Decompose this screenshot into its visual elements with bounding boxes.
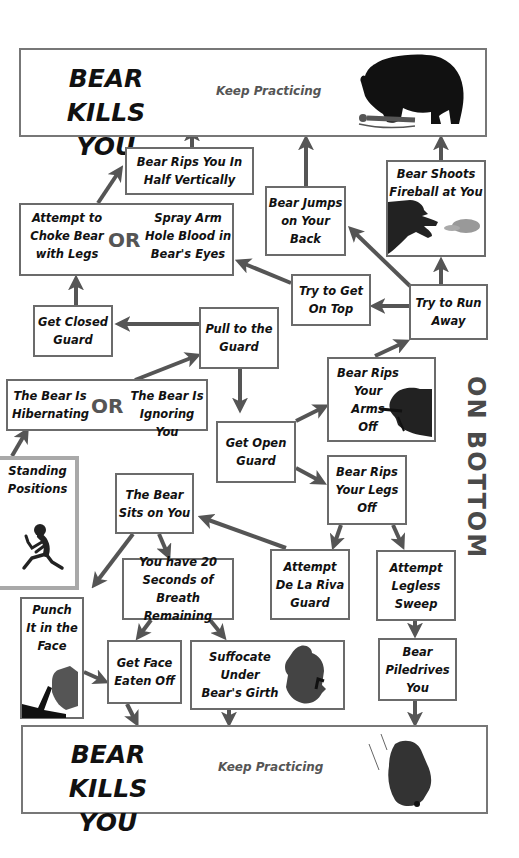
node-choke-legs: Attempt to Choke Bear with Legs <box>26 209 108 263</box>
punching-bear-icon <box>22 662 82 718</box>
arrow-standing-to-hib <box>12 432 26 456</box>
arrow-open-to-legs <box>296 468 322 482</box>
sitting-bear-icon <box>282 645 330 707</box>
node-pull-guard: Pull to the Guard <box>199 307 279 369</box>
node-jumps-back: Bear Jumps on Your Back <box>265 186 346 256</box>
node-open-guard: Get Open Guard <box>216 421 296 483</box>
side-label-on-bottom: ON BOTTOM <box>462 376 490 559</box>
or-label-1: OR <box>108 228 140 252</box>
node-run-away: Try to Run Away <box>409 284 488 340</box>
arrow-legs-to-legless <box>393 525 402 545</box>
arrow-choke-to-rips-half <box>98 170 120 203</box>
arrow-punch-to-face <box>84 672 104 681</box>
arrow-open-to-arms <box>296 407 324 421</box>
node-ignoring: The Bear Is Ignoring You <box>127 387 207 441</box>
top-outcome-subtitle: Keep Practicing <box>216 84 321 98</box>
node-de-la-riva: Attempt De La Riva Guard <box>270 549 350 620</box>
or-label-2: OR <box>91 394 123 418</box>
arrow-dlr-to-sits <box>203 518 286 548</box>
node-spray-blood: Spray Arm Hole Blood in Bear's Eyes <box>143 209 233 263</box>
node-face-eaten: Get Face Eaten Off <box>107 640 182 704</box>
node-rips-half: Bear Rips You In Half Vertically <box>125 147 254 195</box>
bottom-outcome-subtitle: Keep Practicing <box>218 760 323 774</box>
arrow-top-to-spray <box>240 262 291 283</box>
bear-eating-person-icon <box>355 52 467 136</box>
arrow-legs-to-dlr <box>334 525 341 545</box>
node-closed-guard: Get Closed Guard <box>33 305 113 357</box>
node-rips-legs: Bear Rips Your Legs Off <box>327 455 407 525</box>
node-twenty-seconds: You have 20 Seconds of Breath Remaining <box>122 558 234 620</box>
falling-bear-icon <box>365 728 445 812</box>
node-legless-sweep: Attempt Legless Sweep <box>376 550 456 621</box>
node-piledrives: Bear Piledrives You <box>378 638 457 701</box>
arrow-sits-to-20s <box>159 534 168 555</box>
bear-ripping-arm-icon <box>380 385 434 441</box>
node-hibernating: The Bear Is Hibernating <box>12 387 88 423</box>
arrow-hib-to-pull <box>135 356 196 380</box>
arrow-face-to-bottom <box>127 704 136 722</box>
bottom-outcome-title: BEAR KILLS YOU <box>38 738 178 840</box>
fireball-bear-icon <box>388 200 484 254</box>
node-get-on-top: Try to Get On Top <box>291 274 371 326</box>
node-sits-on-you: The Bear Sits on You <box>115 473 194 534</box>
arrow-arms-to-run <box>375 342 405 356</box>
stick-figure-fighter-icon <box>18 522 68 572</box>
